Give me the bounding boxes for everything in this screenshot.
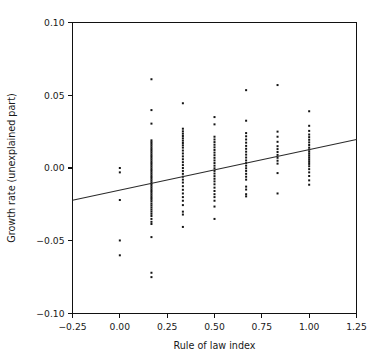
- data-point: [150, 164, 152, 166]
- data-point: [214, 187, 216, 189]
- data-point: [214, 200, 216, 202]
- data-point: [214, 206, 216, 208]
- data-point: [150, 211, 152, 213]
- data-point: [182, 185, 184, 187]
- data-point: [150, 223, 152, 225]
- data-point: [150, 139, 152, 141]
- data-point: [150, 209, 152, 211]
- data-point: [245, 120, 247, 122]
- data-point: [150, 218, 152, 220]
- data-point: [214, 149, 216, 151]
- data-point: [214, 165, 216, 167]
- data-point: [245, 195, 247, 197]
- y-tick-label: −0.10: [36, 308, 64, 319]
- plot-canvas: −0.250.000.250.500.751.001.25 −0.10−0.05…: [0, 0, 375, 364]
- data-point: [150, 207, 152, 209]
- data-point: [308, 136, 310, 138]
- data-point: [182, 140, 184, 142]
- data-point: [150, 205, 152, 207]
- data-point: [214, 162, 216, 164]
- data-point: [182, 192, 184, 194]
- data-point: [308, 151, 310, 153]
- data-point: [245, 148, 247, 150]
- data-point: [277, 141, 279, 143]
- data-point: [277, 172, 279, 174]
- data-point: [308, 130, 310, 132]
- y-tick-label: −0.05: [36, 235, 64, 246]
- x-tick-label: 0.25: [157, 321, 178, 332]
- data-point: [182, 214, 184, 216]
- data-point: [119, 167, 121, 169]
- data-point: [214, 136, 216, 138]
- data-point: [308, 155, 310, 157]
- data-point: [150, 169, 152, 171]
- data-point: [150, 160, 152, 162]
- data-point: [150, 152, 152, 154]
- data-point: [182, 102, 184, 104]
- data-point: [150, 203, 152, 205]
- data-point: [182, 196, 184, 198]
- data-point: [150, 148, 152, 150]
- data-point: [214, 196, 216, 198]
- data-point: [150, 109, 152, 111]
- x-tick-label: 0.00: [110, 321, 131, 332]
- data-point: [214, 146, 216, 148]
- data-point: [182, 128, 184, 130]
- data-point: [119, 171, 121, 173]
- data-point: [308, 179, 310, 181]
- data-point: [308, 139, 310, 141]
- data-point: [214, 138, 216, 140]
- data-point: [150, 221, 152, 223]
- data-point: [182, 135, 184, 137]
- data-point: [308, 184, 310, 186]
- data-point: [182, 133, 184, 135]
- data-point: [182, 200, 184, 202]
- data-point: [277, 163, 279, 165]
- y-tick-label: 0.05: [44, 90, 65, 101]
- data-point: [245, 132, 247, 134]
- data-point: [214, 141, 216, 143]
- data-point: [308, 144, 310, 146]
- data-point: [245, 186, 247, 188]
- data-point: [150, 192, 152, 194]
- y-axis-title: Growth rate (unexplained part): [6, 93, 17, 242]
- data-point: [182, 150, 184, 152]
- x-axis-ticks: −0.250.000.250.500.751.001.25: [58, 314, 366, 332]
- data-point: [308, 159, 310, 161]
- data-point: [245, 157, 247, 159]
- data-point: [245, 135, 247, 137]
- data-point: [182, 164, 184, 166]
- data-point: [308, 153, 310, 155]
- data-point: [277, 192, 279, 194]
- x-tick-label: 0.50: [204, 321, 225, 332]
- data-point: [308, 163, 310, 165]
- data-point: [119, 199, 121, 201]
- data-point: [245, 173, 247, 175]
- data-point: [150, 186, 152, 188]
- x-tick-label: 0.75: [252, 321, 273, 332]
- data-point: [214, 175, 216, 177]
- data-point: [214, 173, 216, 175]
- data-point: [214, 123, 216, 125]
- data-point: [245, 89, 247, 91]
- data-point: [277, 154, 279, 156]
- x-tick-label: 1.00: [299, 321, 320, 332]
- data-point: [308, 141, 310, 143]
- data-point: [150, 171, 152, 173]
- data-point: [308, 175, 310, 177]
- scatter-plot-figure: −0.250.000.250.500.751.001.25 −0.10−0.05…: [0, 0, 375, 364]
- data-point: [245, 138, 247, 140]
- data-point: [277, 145, 279, 147]
- data-point: [245, 179, 247, 181]
- data-point: [182, 211, 184, 213]
- data-point: [182, 170, 184, 172]
- data-point: [308, 161, 310, 163]
- data-point: [182, 189, 184, 191]
- data-point: [150, 236, 152, 238]
- data-point: [150, 159, 152, 161]
- data-point: [245, 176, 247, 178]
- data-point: [245, 189, 247, 191]
- data-point: [150, 180, 152, 182]
- data-point: [150, 185, 152, 187]
- data-point: [308, 157, 310, 159]
